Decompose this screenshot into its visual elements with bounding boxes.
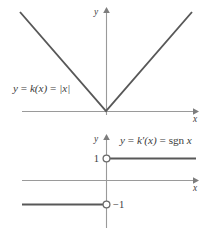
top-y-axis-label: y: [93, 7, 99, 17]
bottom-y-axis-arrowhead: [103, 134, 110, 140]
eq-top-eq1: =: [18, 82, 30, 94]
top-x-axis-label: x: [192, 114, 198, 124]
eq-bot-eq1: =: [125, 134, 137, 146]
top-y-axis-arrowhead: [103, 7, 110, 13]
eq-bot-x: x: [186, 134, 192, 146]
eq-bot-of-x: (x): [144, 134, 157, 147]
bottom-x-axis-label: x: [192, 183, 198, 193]
eq-top-abs-x: |x|: [59, 82, 70, 94]
math-figure: y x y = k(x) = |x| 1 −1 y: [0, 0, 219, 231]
signum-negative-open-endpoint: [103, 201, 110, 208]
eq-bot-sgn: sgn: [169, 134, 185, 146]
signum-positive-open-endpoint: [103, 155, 110, 162]
eq-top-of-x: (x): [35, 82, 48, 95]
signum-plot: 1 −1 y x y = k′(x) = sgnx: [22, 134, 199, 228]
absolute-value-plot: y x y = k(x) = |x|: [12, 7, 199, 124]
eq-top-eq2: =: [47, 82, 59, 94]
signum-negative-tick-label: −1: [113, 199, 124, 210]
signum-positive-tick-label: 1: [94, 153, 99, 164]
signum-equation-label: y = k′(x) = sgnx: [119, 134, 192, 147]
bottom-y-axis-label: y: [93, 134, 99, 144]
figure-canvas: y x y = k(x) = |x| 1 −1 y: [0, 0, 219, 231]
absolute-value-equation-label: y = k(x) = |x|: [12, 82, 70, 95]
eq-bot-eq2: =: [157, 134, 169, 146]
